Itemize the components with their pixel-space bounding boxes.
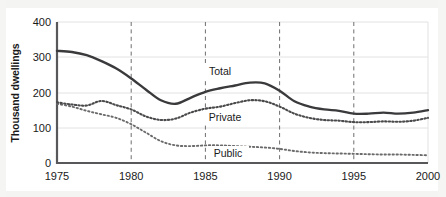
y-tick-label-300: 300 <box>33 51 51 63</box>
y-axis-title: Thousand dwellings <box>9 43 21 142</box>
y-tick-label-200: 200 <box>33 87 51 99</box>
y-tick-labels: 400 300 200 100 0 <box>33 16 51 169</box>
x-tick-label-1995: 1995 <box>342 170 366 182</box>
x-tick-label-1990: 1990 <box>267 170 291 182</box>
x-tick-label-1975: 1975 <box>45 170 69 182</box>
x-tick-label-1985: 1985 <box>193 170 217 182</box>
series-label-private: Private <box>209 111 242 123</box>
y-tick-label-400: 400 <box>33 16 51 28</box>
series-label-total: Total <box>209 65 231 77</box>
x-tick-labels: 197519801985199019952000 <box>45 170 440 182</box>
x-tick-label-2000: 2000 <box>416 170 440 182</box>
y-tick-label-100: 100 <box>33 122 51 134</box>
y-tick-label-0: 0 <box>45 157 51 169</box>
line-chart-plot: 400 300 200 100 0 1975198019851990199520… <box>0 0 446 197</box>
x-tick-label-1980: 1980 <box>119 170 143 182</box>
series-label-public: Public <box>214 147 243 159</box>
chart-figure: 400 300 200 100 0 1975198019851990199520… <box>0 0 446 197</box>
